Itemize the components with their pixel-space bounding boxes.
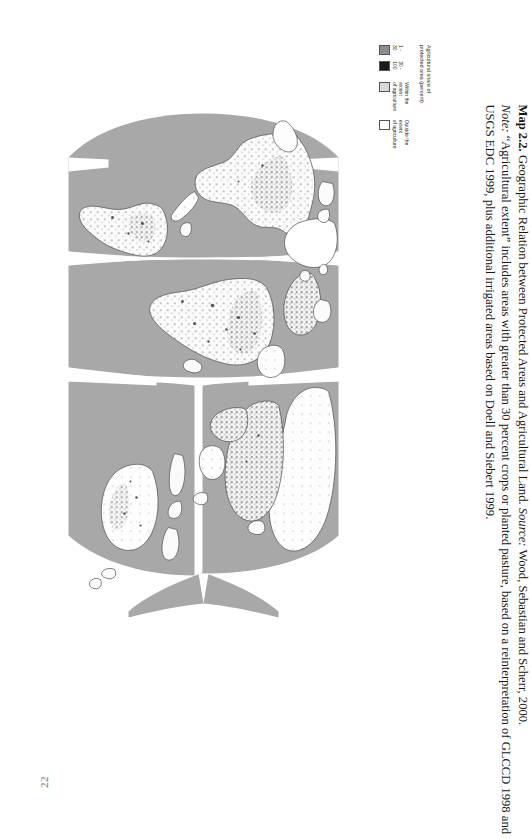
legend-label-outside-extent: Outside the extent of agriculture	[392, 120, 410, 155]
caption-title: Geographic Relation between Protected Ar…	[516, 155, 530, 505]
new-zealand-1	[101, 568, 115, 578]
legend-swatch-outside-extent	[379, 120, 390, 130]
caption-note-line2: USGS EDC 1999, plus additional irrigated…	[482, 105, 496, 520]
legend-label-1-30: 1 - 30	[392, 45, 404, 56]
new-zealand-2	[89, 578, 101, 588]
map-legend: Agricultural share of protected area (pe…	[340, 45, 432, 155]
page-number-value: 22	[38, 776, 50, 788]
legend-label-30-100: 30 - 100	[392, 61, 404, 77]
caption-map-label: Map 2.2.	[516, 105, 530, 152]
caption-line-2: Note: “Agricultural extent” includes are…	[497, 105, 514, 730]
map-caption: Map 2.2. Geographic Relation between Pro…	[459, 105, 531, 730]
map-graphic	[48, 105, 358, 730]
caption-note-line1: “Agricultural extent” includes areas wit…	[499, 136, 513, 834]
legend-entry-within-extent: Within the extent of agriculture	[379, 82, 410, 114]
world-map	[48, 105, 358, 730]
caption-line-3: USGS EDC 1999, plus additional irrigated…	[481, 105, 498, 730]
page-number: 22	[24, 762, 64, 802]
southeast-asia	[199, 445, 225, 479]
map-rotation-stage	[48, 105, 358, 730]
legend-swatch-within-extent	[379, 82, 390, 92]
legend-swatch-30-100	[379, 61, 390, 71]
legend-entry-1-30: 1 - 30	[379, 45, 404, 56]
legend-swatch-1-30	[379, 45, 390, 55]
legend-label-within-extent: Within the extent of agriculture	[392, 82, 410, 114]
caption-source-text: Wood, Sebastian and Scherr, 2000.	[516, 549, 530, 725]
philippines	[193, 492, 208, 504]
caption-note-label: Note:	[499, 105, 513, 133]
legend-entry-outside-extent: Outside the extent of agriculture	[379, 120, 410, 155]
legend-entries: 1 - 30 30 - 100 Within the extent of agr…	[379, 45, 410, 155]
caption-source-label: Source:	[516, 508, 530, 547]
legend-entry-30-100: 30 - 100	[379, 61, 404, 77]
arctic-islands-1	[318, 181, 334, 205]
legend-rotation-stage: Agricultural share of protected area (pe…	[340, 45, 432, 155]
caption-line-1: Map 2.2. Geographic Relation between Pro…	[514, 105, 531, 730]
caption-text-block: Map 2.2. Geographic Relation between Pro…	[481, 105, 531, 730]
legend-title: Agricultural share of protected area (pe…	[418, 45, 432, 155]
